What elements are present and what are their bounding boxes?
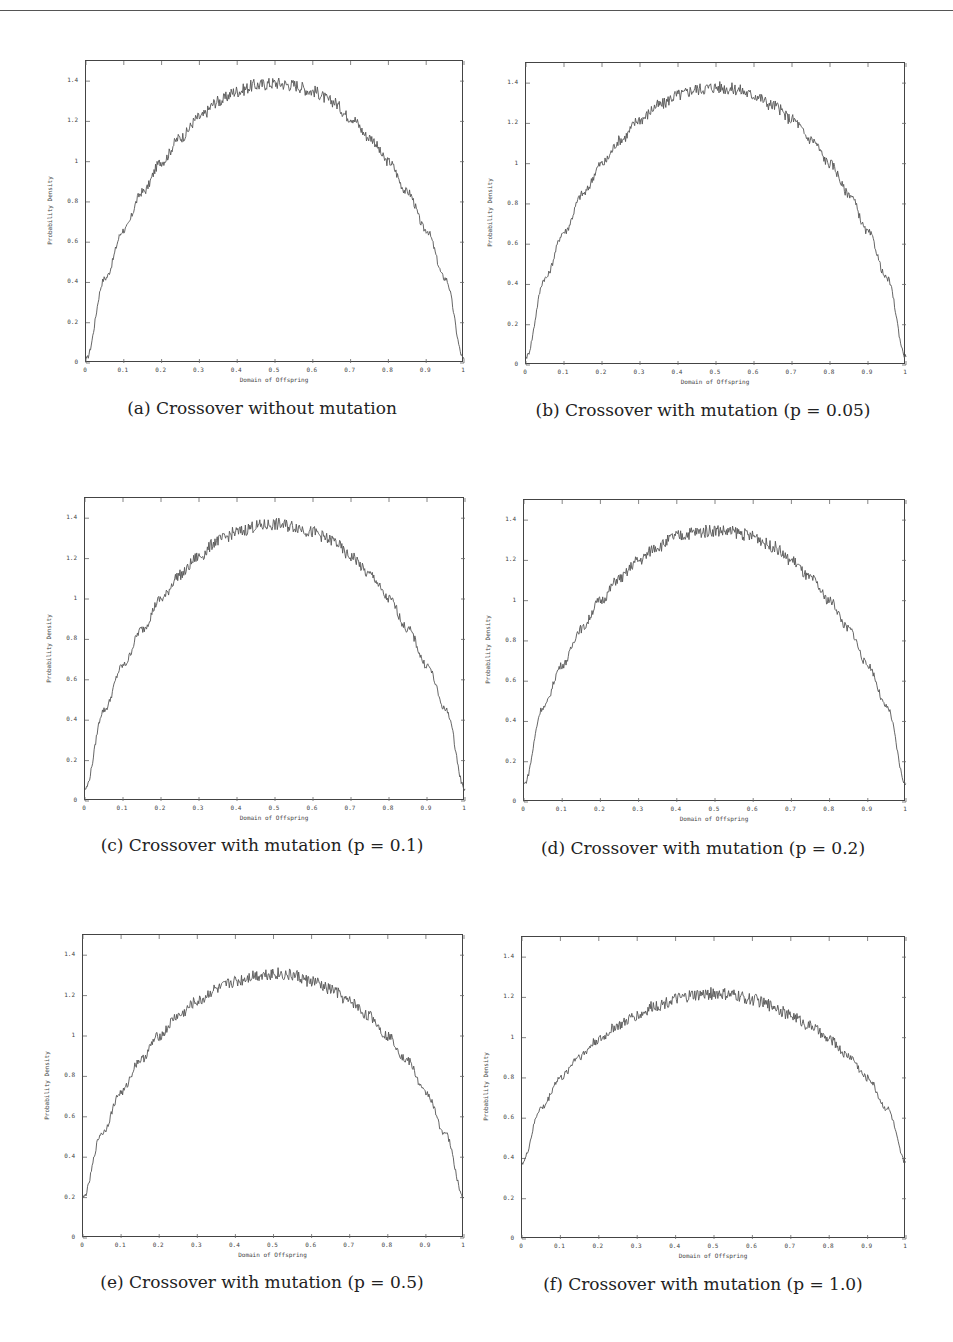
y-tick-label: 0.8 xyxy=(496,636,516,643)
figure-caption: (f) Crossover with mutation (p = 1.0) xyxy=(503,1274,903,1294)
y-tick-label: 1.4 xyxy=(494,952,514,959)
x-tick-label: 0.9 xyxy=(857,368,877,375)
x-tick-label: 0.7 xyxy=(780,1242,800,1249)
x-tick-label: 1 xyxy=(453,366,473,373)
plot-area xyxy=(84,497,464,800)
y-tick-label: 0.8 xyxy=(498,199,518,206)
x-tick-label: 0.4 xyxy=(226,366,246,373)
x-tick-label: 0.5 xyxy=(263,1241,283,1248)
x-tick-label: 0.2 xyxy=(151,366,171,373)
y-tick-label: 1.2 xyxy=(498,118,518,125)
x-tick-label: 0.9 xyxy=(857,805,877,812)
x-tick-label: 0 xyxy=(72,1241,92,1248)
figure-caption: (d) Crossover with mutation (p = 0.2) xyxy=(503,838,903,858)
x-tick-label: 0.3 xyxy=(188,366,208,373)
x-tick-label: 0.9 xyxy=(416,804,436,811)
y-tick-label: 1.4 xyxy=(57,513,77,520)
x-tick-label: 0 xyxy=(515,368,535,375)
x-tick-label: 0.8 xyxy=(377,366,397,373)
y-tick-label: 0.4 xyxy=(57,715,77,722)
x-tick-label: 0.1 xyxy=(113,366,133,373)
figure-caption: (e) Crossover with mutation (p = 0.5) xyxy=(62,1272,462,1292)
x-tick-label: 0.3 xyxy=(186,1241,206,1248)
x-tick-label: 1 xyxy=(454,804,474,811)
y-tick-label: 1 xyxy=(57,594,77,601)
x-tick-label: 0.7 xyxy=(339,1241,359,1248)
y-tick-label: 1.2 xyxy=(55,991,75,998)
header-rule xyxy=(0,10,953,11)
x-tick-label: 0.8 xyxy=(819,805,839,812)
figure-caption: (a) Crossover without mutation xyxy=(62,398,462,418)
x-tick-label: 0.6 xyxy=(741,1242,761,1249)
y-tick-label: 1 xyxy=(58,157,78,164)
y-axis-label: Probability Density xyxy=(482,1027,489,1147)
x-tick-label: 1 xyxy=(453,1241,473,1248)
y-axis-label: Probability Density xyxy=(484,590,491,710)
y-tick-label: 1.4 xyxy=(498,78,518,85)
plot-area xyxy=(521,936,905,1238)
x-tick-label: 0.7 xyxy=(781,368,801,375)
x-tick-label: 0.2 xyxy=(148,1241,168,1248)
y-axis-label: Probability Density xyxy=(46,151,53,271)
y-tick-label: 0.8 xyxy=(58,197,78,204)
y-tick-label: 0.6 xyxy=(57,675,77,682)
y-tick-label: 1 xyxy=(55,1031,75,1038)
x-tick-label: 0.7 xyxy=(340,804,360,811)
x-axis-label: Domain of Offspring xyxy=(224,376,324,383)
y-axis-label: Probability Density xyxy=(43,1025,50,1145)
x-tick-label: 0.8 xyxy=(818,1242,838,1249)
x-tick-label: 0.4 xyxy=(226,804,246,811)
x-tick-label: 0.5 xyxy=(264,804,284,811)
x-tick-label: 0.4 xyxy=(666,805,686,812)
y-tick-label: 1.4 xyxy=(55,950,75,957)
x-tick-label: 0.1 xyxy=(112,804,132,811)
density-curve xyxy=(83,935,464,1238)
x-tick-label: 0.9 xyxy=(415,366,435,373)
y-tick-label: 0.6 xyxy=(496,676,516,683)
x-tick-label: 0.5 xyxy=(705,368,725,375)
x-tick-label: 0.5 xyxy=(704,805,724,812)
y-axis-label: Probability Density xyxy=(45,588,52,708)
y-tick-label: 1 xyxy=(498,159,518,166)
x-tick-label: 0.2 xyxy=(588,1242,608,1249)
y-tick-label: 0.8 xyxy=(494,1073,514,1080)
x-tick-label: 0.1 xyxy=(549,1242,569,1249)
y-tick-label: 0.2 xyxy=(496,757,516,764)
y-tick-label: 0 xyxy=(496,797,516,804)
x-tick-label: 0.8 xyxy=(378,804,398,811)
x-axis-label: Domain of Offspring xyxy=(223,1251,323,1258)
x-tick-label: 0.2 xyxy=(591,368,611,375)
density-curve xyxy=(522,937,906,1239)
x-tick-label: 0.5 xyxy=(264,366,284,373)
y-tick-label: 1.2 xyxy=(496,555,516,562)
x-tick-label: 0.7 xyxy=(340,366,360,373)
y-tick-label: 0.2 xyxy=(57,756,77,763)
y-tick-label: 0.2 xyxy=(58,318,78,325)
x-tick-label: 0.9 xyxy=(415,1241,435,1248)
y-tick-label: 0 xyxy=(57,796,77,803)
plot-area xyxy=(523,499,905,801)
y-tick-label: 1 xyxy=(496,596,516,603)
x-tick-label: 0.6 xyxy=(302,366,322,373)
y-tick-label: 0 xyxy=(58,358,78,365)
y-tick-label: 0 xyxy=(498,360,518,367)
x-tick-label: 0.7 xyxy=(780,805,800,812)
density-curve xyxy=(85,498,465,801)
x-tick-label: 1 xyxy=(895,1242,915,1249)
x-tick-label: 0.3 xyxy=(626,1242,646,1249)
y-tick-label: 0.4 xyxy=(498,279,518,286)
y-tick-label: 0 xyxy=(55,1233,75,1240)
x-tick-label: 0.1 xyxy=(553,368,573,375)
y-tick-label: 0 xyxy=(494,1234,514,1241)
y-tick-label: 0.6 xyxy=(498,239,518,246)
x-tick-label: 0.6 xyxy=(743,368,763,375)
x-tick-label: 0.1 xyxy=(551,805,571,812)
x-tick-label: 0.6 xyxy=(742,805,762,812)
x-tick-label: 0.4 xyxy=(665,1242,685,1249)
x-tick-label: 0.6 xyxy=(301,1241,321,1248)
plot-area xyxy=(525,62,905,364)
y-tick-label: 1.2 xyxy=(57,554,77,561)
x-tick-label: 0.1 xyxy=(110,1241,130,1248)
y-tick-label: 0.6 xyxy=(55,1112,75,1119)
plot-area xyxy=(82,934,463,1237)
